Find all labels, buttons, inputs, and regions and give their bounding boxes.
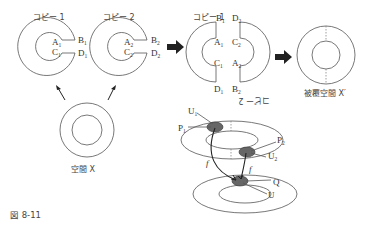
copy1-label-d: D1: [78, 48, 88, 59]
covering-inner-circle: [312, 41, 340, 69]
copy1-label-b: B1: [78, 35, 87, 46]
cut-copy1-label-d: D1: [214, 84, 224, 95]
copy1-group: コピー 1 A1 C1 B1 D1: [18, 13, 88, 76]
cut-copy2-label-a: A2: [232, 58, 242, 69]
label-f-right: f: [249, 164, 253, 174]
label-f-left: f: [206, 158, 210, 168]
space-x-group: 空間 X: [60, 103, 114, 174]
label-p1: P1: [178, 123, 186, 134]
copy2-label-b: B2: [151, 35, 160, 46]
covering-space-diagram: コピー 1 A1 C1 B1 D1 コピー 2 A2 C2 B2 D2 コピー …: [0, 0, 373, 235]
right-arrow-icon: [167, 40, 184, 54]
covering-space-group: 被覆空間 X′: [297, 26, 355, 98]
cut-copy1-label-a: A1: [214, 37, 224, 48]
copy1-outer-arc: [18, 17, 75, 75]
cut-copy2-label-d: D2: [232, 13, 242, 24]
cut-copy1-label-c: C1: [214, 58, 223, 69]
up-arrow-icon: [108, 85, 116, 100]
space-x-outer-circle: [60, 103, 114, 157]
covering-map-illustration: U1 P1 P2 U2 f f Q U: [178, 106, 297, 213]
map-f-left-curve: [211, 128, 236, 180]
copy2-group: コピー 2 A2 C2 B2 D2: [90, 13, 161, 76]
label-q: Q: [273, 177, 280, 187]
figure-caption: 図 8-11: [10, 210, 41, 220]
cut-copy2-title-rotated: コピー 2: [238, 96, 270, 105]
label-u1: U1: [188, 106, 198, 117]
cut-copy2-group: D2 C2 A2 B2 コピー 2: [232, 13, 270, 105]
copy2-label-d: D2: [151, 48, 161, 59]
cut-copy1-outer-arc: [186, 22, 216, 82]
cut-copy2-label-b: B2: [232, 84, 241, 95]
leader-q: [246, 180, 271, 181]
cut-copy1-group: コピー 1 B1 A1 C1 D1: [186, 13, 225, 95]
copy1-label-c: C1: [52, 47, 61, 58]
neighborhood-u2: [239, 147, 255, 157]
leader-u: [243, 183, 267, 194]
copy2-outer-arc: [90, 17, 147, 75]
base-torus-inner: [219, 185, 271, 203]
up-arrow-icon: [56, 85, 65, 100]
space-x-inner-circle: [72, 115, 102, 145]
label-u: U: [268, 190, 275, 200]
copy2-label-c: C2: [124, 47, 133, 58]
label-p2: P2: [277, 135, 285, 146]
label-u2: U2: [268, 151, 278, 162]
upper-torus-inner: [206, 131, 258, 149]
cut-copy2-outer-arc: [240, 22, 270, 82]
cut-copy2-inner-arc: [240, 38, 254, 66]
cut-copy2-label-c: C2: [232, 37, 241, 48]
right-arrow-icon: [275, 50, 292, 64]
leader-p2: [251, 142, 276, 151]
covering-space-label: 被覆空間 X′: [304, 88, 346, 98]
leader-u1: [197, 113, 213, 124]
space-x-label: 空間 X: [71, 164, 96, 174]
